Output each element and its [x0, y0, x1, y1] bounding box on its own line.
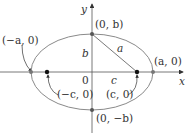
label-bottom-vertex: (0, −b) [96, 112, 133, 124]
point-left-vertex [29, 70, 33, 74]
point-top-vertex [90, 32, 94, 36]
label-left-vertex: (−a, 0) [2, 34, 39, 46]
y-axis-label: y [80, 3, 88, 15]
label-right-focus: (c, 0) [106, 88, 133, 100]
segment-a-label: a [117, 42, 123, 54]
point-right-vertex [151, 70, 155, 74]
label-top-vertex: (0, b) [95, 18, 123, 30]
arrow-left-vertex [22, 45, 31, 71]
segment-b-label: b [82, 47, 89, 59]
segment-a [92, 34, 137, 72]
ellipse-diagram: y x (0, b) (0, −b) (−a, 0) (a, 0) (−c, 0… [0, 0, 187, 133]
point-left-focus [45, 70, 49, 74]
segment-c-label: c [111, 74, 117, 86]
origin-label: 0 [82, 74, 89, 86]
point-bottom-vertex [90, 108, 94, 112]
label-right-vertex: (a, 0) [154, 55, 182, 67]
label-left-focus: (−c, 0) [57, 88, 93, 100]
point-right-focus [135, 70, 139, 74]
x-axis-label: x [179, 75, 185, 87]
